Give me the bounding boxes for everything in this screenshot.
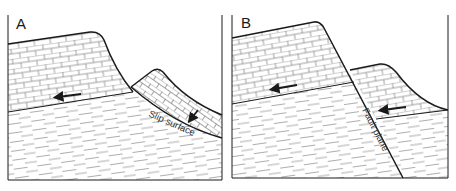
panel-b: Fault plane	[232, 15, 448, 178]
diagram-canvas: Slip surface Fault plane	[0, 0, 456, 191]
panel-a: Slip surface	[8, 15, 222, 180]
panel-b-label: B	[241, 14, 251, 31]
panel-a-label: A	[16, 15, 26, 32]
